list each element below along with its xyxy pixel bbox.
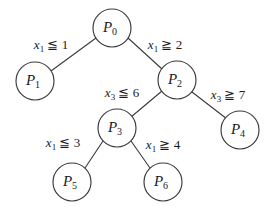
tree-diagram-canvas: P0P1P2P3P4P5P6 x1 ≦ 1x1 ≧ 2x3 ≦ 6x3 ≧ 7x…: [0, 0, 276, 214]
tree-edge-label-p0-p1: x1 ≦ 1: [33, 37, 68, 54]
tree-edge-label-p3-p5: x1 ≦ 3: [45, 135, 80, 152]
tree-edge-p3-p5: [85, 141, 103, 168]
tree-edge-label-p0-p2: x1 ≧ 2: [147, 37, 182, 54]
tree-edge-labels-group: x1 ≦ 1x1 ≧ 2x3 ≦ 6x3 ≧ 7x1 ≦ 3x1 ≧ 4: [33, 37, 246, 154]
branch-and-bound-tree-figure: P0P1P2P3P4P5P6 x1 ≦ 1x1 ≧ 2x3 ≦ 6x3 ≧ 7x…: [0, 0, 276, 214]
tree-edge-label-p3-p6: x1 ≧ 4: [145, 137, 181, 154]
tree-edge-label-p2-p4: x3 ≧ 7: [210, 87, 246, 104]
tree-edge-label-p2-p3: x3 ≦ 6: [104, 85, 140, 102]
